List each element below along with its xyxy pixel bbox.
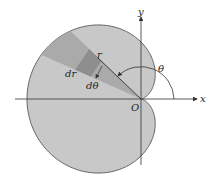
cardioid-diagram: y x O θ r dr dθ (0, 0, 213, 179)
theta-label: θ (158, 63, 164, 74)
origin-label: O (131, 102, 139, 113)
x-axis-label: x (200, 93, 206, 104)
dtheta-label: dθ (86, 80, 98, 91)
y-axis-label: y (137, 6, 144, 17)
dr-label: dr (65, 68, 77, 79)
